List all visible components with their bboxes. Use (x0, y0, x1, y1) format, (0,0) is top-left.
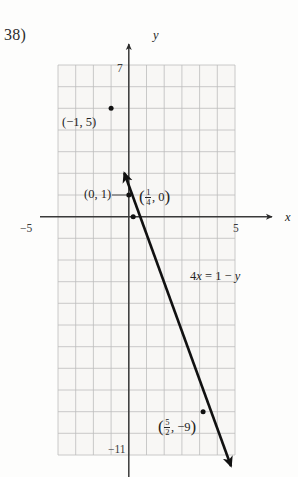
point-marker-neg1-5 (109, 106, 114, 111)
x-tick-label-5: 5 (233, 222, 239, 234)
close-paren: ) (190, 417, 196, 436)
open-paren: ( (158, 417, 164, 436)
graph-svg (0, 0, 298, 477)
eq-constant: 1 (215, 269, 221, 283)
fraction-five-halves: 52 (164, 418, 170, 437)
point-label-fivehalves-neg9: (52, −9) (158, 418, 196, 437)
point-marker-fivehalves-neg9 (201, 409, 206, 414)
point-marker-quarter-0 (131, 214, 136, 219)
x-tick-label-negative-5: −5 (20, 222, 32, 234)
eq-variable-y: y (235, 269, 241, 283)
point-label-0-1: (0, 1) (84, 188, 111, 201)
fraction-one-quarter: 14 (145, 188, 151, 207)
y-tick-label-negative-11: −11 (108, 443, 126, 455)
open-paren: ( (139, 187, 145, 206)
point-coords-tail: , −9 (171, 420, 191, 434)
point-label-quarter-0: (14, 0) (139, 188, 170, 207)
x-axis-label: x (285, 210, 291, 225)
graph-figure: x y −5 5 7 −11 (−1, 5) (0, 1) (14, 0) (5… (0, 0, 298, 477)
close-paren: ) (164, 187, 170, 206)
point-label-neg1-5: (−1, 5) (62, 116, 96, 129)
eq-equals: = (205, 269, 212, 283)
y-tick-label-7: 7 (117, 62, 123, 74)
y-axis-label: y (153, 28, 159, 43)
eq-minus: − (225, 269, 232, 283)
point-coords-tail: , 0 (152, 190, 165, 204)
point-marker-0-1 (126, 193, 131, 198)
eq-variable-x: x (196, 269, 202, 283)
equation-annotation: 4x = 1 − y (190, 269, 240, 284)
worksheet-page: 38) (0, 0, 298, 477)
